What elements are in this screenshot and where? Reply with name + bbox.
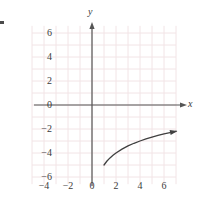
x-tick-label: 2 [106,181,126,191]
y-tick-label: 2 [0,76,62,86]
x-tick-label: 6 [154,181,174,191]
x-axis-arrowhead [180,102,187,107]
y-axis-label: y [88,7,92,17]
y-tick-label: 6 [0,28,62,38]
y-tick-label: −4 [0,148,62,158]
x-tick-label: 0 [82,181,102,191]
y-tick-label: 0 [0,100,62,110]
y-tick-label: 4 [0,52,62,62]
graph-figure: 6420−2−4−6 −4−20246 y x [0,0,199,199]
x-tick-label: −2 [58,181,78,191]
x-axis-label: x [188,99,192,109]
x-tick-label: 4 [130,181,150,191]
plotted-curve [104,130,177,165]
x-tick-label: −4 [34,181,54,191]
y-axis-arrowhead [89,22,94,29]
y-tick-label: −2 [0,124,62,134]
